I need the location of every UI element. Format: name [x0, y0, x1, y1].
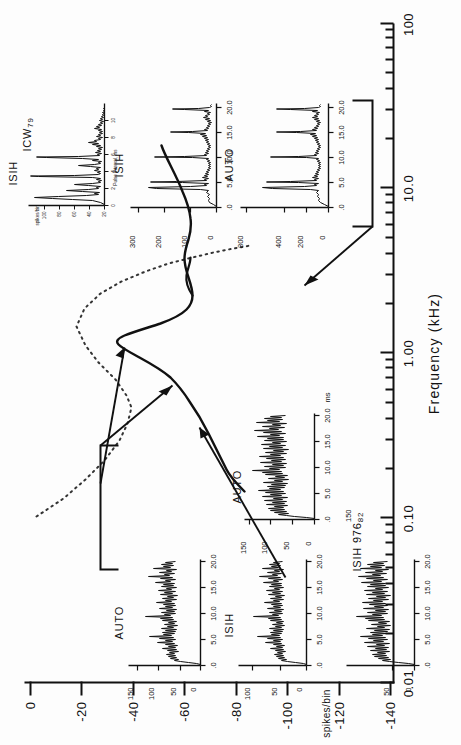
- inset-isih-low-ytick-100: 100: [243, 687, 252, 700]
- inset-isih-low-ytick-50: 50: [270, 687, 279, 695]
- inset-isih-low-plot: [224, 555, 320, 683]
- inset-auto-low-xtick-5: 5.0: [208, 634, 217, 644]
- rotated-figure-container: 0.01 0.10 1.00 10.0 100 Frequency (kHz) …: [0, 0, 461, 745]
- inset-auto-cf-ytick-150: 150: [239, 541, 248, 554]
- inset-isih-icw-ytick-20: 20: [102, 211, 107, 216]
- inset-isih-low-xtick-0: .0: [314, 662, 323, 668]
- inset-auto-high-plot: [232, 101, 342, 229]
- inset-isih-spont-xtick-20: 20.0: [422, 554, 431, 569]
- figure-page: 0.01 0.10 1.00 10.0 100 Frequency (kHz) …: [0, 0, 461, 745]
- inset-auto-cf-plot: [234, 409, 330, 537]
- inset-isih-high-ytick-200: 200: [154, 235, 163, 248]
- inset-auto-high-xtick-5: 5.0: [336, 177, 345, 187]
- inset-auto-cf: 150 100 50 0 .0 5.0 10.0 15.0 20.0 ms AU…: [234, 409, 330, 537]
- inset-isih-spont-ytick-50: 50: [382, 687, 391, 695]
- inset-isih-high-xtick-10: 10.0: [224, 150, 233, 165]
- inset-isih-spont: 50 0 .0 5.0 10.0 15.0 20.0 spikes/bin IS…: [334, 555, 430, 683]
- inset-auto-cf-xtick-0: .0: [322, 516, 331, 522]
- inset-isih-low-xtick-15: 15.0: [314, 580, 323, 595]
- inset-auto-high-xtick-15: 15.0: [336, 125, 345, 140]
- inset-isih-icw-subtitle-sub: 79: [25, 117, 34, 128]
- inset-isih-icw-ytick-40: 40: [87, 211, 92, 216]
- inset-isih-spont-title-text: ISIH 976: [350, 522, 362, 571]
- inset-isih-icw-yaxis-caption: spikes/bin: [34, 205, 39, 225]
- inset-auto-high-xtick-0: .0: [336, 204, 345, 210]
- inset-auto-low-ytick-100: 100: [147, 687, 156, 700]
- inset-isih-icw-xtick-8: 8: [110, 136, 115, 139]
- inset-auto-low-title: AUTO: [112, 605, 124, 639]
- inset-isih-icw: 100 80 60 40 20 0 2 4 6 8 10 Pulse inter…: [12, 101, 116, 229]
- inset-auto-cf-xtick-5: 5.0: [322, 488, 331, 498]
- inset-auto-low-ytick-0: 0: [189, 687, 198, 691]
- inset-isih-spont-ytick-150: 150: [344, 509, 353, 522]
- inset-auto-cf-title: AUTO: [230, 469, 242, 503]
- inset-isih-low: 100 50 0 .0 5.0 10.0 15.0 20.0 ISIH: [224, 555, 320, 683]
- inset-auto-high-ytick-800: 800: [236, 235, 245, 248]
- inset-auto-cf-ytick-100: 100: [260, 541, 269, 554]
- inset-auto-high: 800 400 200 0 .0 5.0 10.0 15.0 20.0 AUTO: [232, 101, 342, 229]
- inset-auto-low: 150 100 50 0 .0 5.0 10.0 15.0 20.0 AUTO: [118, 555, 214, 683]
- inset-auto-cf-xtick-20: 20.0: [322, 408, 331, 423]
- inset-isih-high: 300 200 100 0 .0 5.0 10.0 15.0 20.0 ISIH: [120, 101, 230, 229]
- inset-isih-high-ytick-300: 300: [128, 235, 137, 248]
- inset-isih-icw-ytick-80: 80: [57, 211, 62, 216]
- inset-isih-spont-xtick-5: 5.0: [422, 634, 431, 644]
- inset-isih-low-xtick-10: 10.0: [314, 606, 323, 621]
- inset-auto-cf-ytick-50: 50: [282, 541, 291, 549]
- inset-isih-spont-xtick-10: 10.0: [422, 606, 431, 621]
- inset-auto-high-xtick-10: 10.0: [336, 150, 345, 165]
- inset-isih-low-xtick-5: 5.0: [314, 634, 323, 644]
- inset-auto-high-ytick-400: 400: [274, 235, 283, 248]
- inset-auto-low-xtick-15: 15.0: [208, 580, 217, 595]
- inset-auto-low-xtick-10: 10.0: [208, 606, 217, 621]
- leader-arrow-left: [100, 385, 172, 445]
- inset-isih-high-xtick-0: .0: [224, 204, 233, 210]
- inset-auto-cf-xtick-10: 10.0: [322, 460, 331, 475]
- inset-isih-low-title: ISIH: [222, 612, 234, 637]
- inset-isih-icw-ytick-60: 60: [72, 211, 77, 216]
- inset-isih-high-xtick-15: 15.0: [224, 125, 233, 140]
- inset-isih-icw-subtitle: ICW79: [20, 117, 34, 151]
- inset-auto-cf-xtick-15: 15.0: [322, 434, 331, 449]
- inset-auto-cf-xunits: ms: [322, 392, 331, 402]
- inset-isih-icw-xtick-10: 10: [110, 117, 115, 122]
- inset-isih-high-ytick-100: 100: [180, 235, 189, 248]
- bracket-right-insets: [352, 100, 372, 226]
- audiogram-dotted-curve: [36, 245, 250, 516]
- inset-isih-icw-xaxis-caption: Pulse interval, ms: [112, 149, 117, 185]
- inset-isih-high-plot: [120, 101, 230, 229]
- inset-isih-high-ytick-0: 0: [206, 235, 215, 239]
- inset-isih-high-xtick-20: 20.0: [224, 100, 233, 115]
- inset-isih-low-ytick-0: 0: [295, 687, 304, 691]
- inset-isih-icw-xtick-2: 2: [110, 187, 115, 190]
- inset-isih-icw-title: ISIH: [6, 160, 18, 185]
- inset-auto-low-xtick-0: .0: [208, 662, 217, 668]
- inset-auto-high-xtick-20: 20.0: [336, 100, 345, 115]
- inset-isih-spont-xtick-15: 15.0: [422, 580, 431, 595]
- spikes-per-bin-label: spikes/bin: [320, 689, 331, 737]
- inset-auto-low-ytick-150: 150: [126, 687, 135, 700]
- inset-auto-low-ytick-50: 50: [169, 687, 178, 695]
- inset-auto-high-ytick-200: 200: [296, 235, 305, 248]
- leader-arrow-right: [304, 226, 372, 285]
- inset-isih-icw-ytick-100: 100: [42, 211, 47, 219]
- inset-isih-spont-ytick-0: 0: [404, 687, 413, 691]
- inset-isih-high-xtick-5: 5.0: [224, 177, 233, 187]
- inset-isih-icw-xtick-0: 0: [110, 204, 115, 207]
- inset-isih-spont-plot: [334, 555, 430, 683]
- inset-auto-high-ytick-0: 0: [318, 235, 327, 239]
- inset-auto-low-plot: [118, 555, 214, 683]
- inset-isih-low-xtick-20: 20.0: [314, 554, 323, 569]
- inset-isih-spont-title-sub: 82: [355, 511, 364, 522]
- inset-auto-cf-ytick-0: 0: [304, 541, 313, 545]
- inset-auto-low-xtick-20: 20.0: [208, 554, 217, 569]
- figure-canvas: 0.01 0.10 1.00 10.0 100 Frequency (kHz) …: [0, 0, 461, 745]
- inset-isih-icw-subtitle-text: ICW: [20, 127, 32, 151]
- inset-isih-spont-xtick-0: .0: [422, 662, 431, 668]
